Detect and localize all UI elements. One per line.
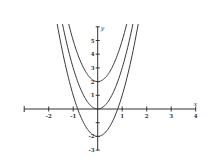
y-tick-label: 3 [91, 65, 95, 71]
y-tick-label: -3 [89, 147, 95, 153]
x-tick-label: -2 [46, 113, 52, 119]
y-tick-label: 1 [91, 92, 95, 98]
y-tick-label: 5 [91, 38, 95, 44]
y-axis-label: y [100, 24, 105, 32]
x-tick-label: -1 [70, 113, 76, 119]
axes: -2-11234-3-212345 [24, 27, 198, 153]
x-tick-label: 3 [169, 113, 173, 119]
chart-area: -2-11234-3-212345 x y [0, 0, 210, 164]
x-tick-label: 2 [145, 113, 149, 119]
y-tick-label: 4 [91, 51, 95, 57]
x-tick-label: 4 [194, 113, 198, 119]
x-axis-label: x [194, 100, 198, 107]
x-tick-label: 1 [120, 113, 124, 119]
